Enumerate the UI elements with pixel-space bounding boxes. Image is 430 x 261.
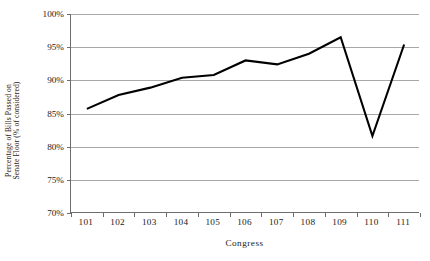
data-series-line (71, 14, 420, 213)
x-axis-title: Congress (70, 238, 419, 248)
plot-area (70, 14, 419, 213)
y-axis-title-line-2: Senate Floor (% of considered) (13, 82, 22, 180)
y-axis-label-85: 85% (4, 109, 64, 119)
y-axis-label-80: 80% (4, 142, 64, 152)
y-axis-label-75: 75% (4, 175, 64, 185)
y-axis-label-100: 100% (4, 9, 64, 19)
x-axis-label-111: 111 (383, 217, 423, 227)
chart-figure: Percentage of Bills Passed on Senate Flo… (0, 0, 430, 261)
y-axis-label-70: 70% (4, 208, 64, 218)
y-axis-title: Percentage of Bills Passed on Senate Flo… (0, 0, 26, 261)
y-axis-label-90: 90% (4, 75, 64, 85)
y-axis-label-95: 95% (4, 42, 64, 52)
y-axis-title-line-1: Percentage of Bills Passed on (5, 84, 14, 177)
gridline-70 (71, 213, 419, 214)
